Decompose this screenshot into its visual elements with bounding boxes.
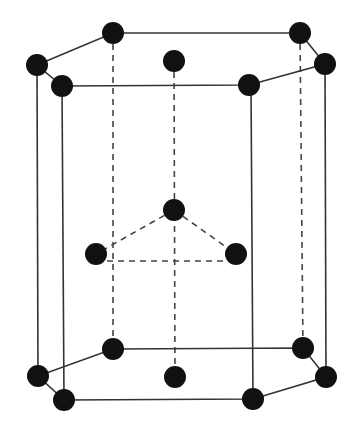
atom-m-back [163,199,185,221]
atom-t-back-left [102,22,124,44]
atom-m-right [225,243,247,265]
atom-b-center [164,366,186,388]
atom-t-front-left [51,75,73,97]
atom-t-center [163,50,185,72]
hidden-vertical-back-right [300,33,303,348]
atom-b-back-left [102,338,124,360]
atom-b-right [315,366,337,388]
atom-b-back-right [292,337,314,359]
atoms [26,22,337,411]
atom-b-front-right [242,388,264,410]
atom-t-left [26,54,48,76]
vertical-front-left [62,86,64,400]
hidden-triangle-left [96,210,174,254]
atom-b-left [27,365,49,387]
atom-m-left [85,243,107,265]
vertical-right [325,64,326,377]
atom-t-right [314,53,336,75]
vertical-front-right [251,85,253,399]
atom-t-back-right [289,22,311,44]
atom-t-front-right [238,74,260,96]
hcp-crystal-diagram [0,0,358,426]
vertical-left [37,65,38,376]
hidden-triangle-right [174,210,236,254]
atom-b-front-left [53,389,75,411]
